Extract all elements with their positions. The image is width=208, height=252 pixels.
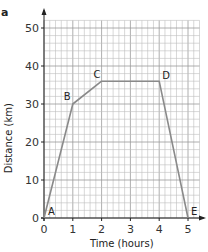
point-label-c: C [94, 69, 101, 80]
y-tick-label: 30 [25, 98, 39, 111]
y-axis-arrow-icon [42, 8, 47, 15]
x-tick-label: 2 [98, 223, 105, 236]
grid [44, 20, 200, 218]
x-tick-label: 0 [41, 223, 48, 236]
y-axis-title: Distance (km) [3, 103, 14, 173]
x-tick-label: 5 [185, 223, 192, 236]
x-tick-label: 1 [69, 223, 76, 236]
y-tick-label: 40 [25, 60, 39, 73]
point-label-a: A [48, 206, 55, 217]
y-tick-label: 0 [32, 212, 39, 225]
panel-label: a [1, 6, 8, 19]
labels: 01234501020304050Time (hours)Distance (k… [1, 6, 197, 249]
y-tick-label: 10 [25, 174, 39, 187]
distance-time-graph: 01234501020304050Time (hours)Distance (k… [0, 0, 208, 252]
point-label-e: E [191, 206, 197, 217]
x-tick-label: 4 [156, 223, 163, 236]
y-tick-label: 20 [25, 136, 39, 149]
y-tick-label: 50 [25, 22, 39, 35]
x-axis-title: Time (hours) [89, 238, 154, 249]
point-label-d: D [162, 70, 170, 81]
x-tick-label: 3 [127, 223, 134, 236]
x-axis-arrow-icon [199, 216, 206, 221]
point-label-b: B [64, 91, 71, 102]
